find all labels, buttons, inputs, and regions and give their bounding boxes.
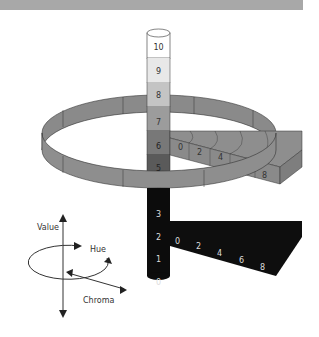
chroma-lower-label-0: 0 xyxy=(175,237,180,246)
hue-arrow-icon xyxy=(74,242,82,250)
munsell-diagram: 10 9 8 7 6 5 3 2 1 0 0 2 4 8 0 2 4 6 8 V… xyxy=(0,0,319,337)
chroma-upper-label-2: 2 xyxy=(197,148,202,157)
chroma-lower-label-4: 4 xyxy=(217,249,222,258)
value-label-6: 6 xyxy=(156,142,161,151)
value-label-7: 7 xyxy=(156,118,161,127)
chroma-arrow-out-icon xyxy=(120,286,127,294)
hue-arrow-tip-icon xyxy=(104,257,112,264)
chroma-lower-label-2: 2 xyxy=(196,242,201,251)
chroma-lower-label-8: 8 xyxy=(260,263,265,272)
chroma-arrow-in-icon xyxy=(66,269,73,277)
value-label-2: 2 xyxy=(156,233,161,242)
chroma-lower-label-6: 6 xyxy=(239,256,244,265)
value-label-5: 5 xyxy=(156,164,161,173)
chroma-upper-label-8: 8 xyxy=(262,171,267,180)
hue-axis-label: Hue xyxy=(90,245,106,254)
value-label-8: 8 xyxy=(156,91,161,100)
value-label-10: 10 xyxy=(153,43,163,52)
chroma-wedge-lower xyxy=(170,221,302,276)
value-up-arrow-icon xyxy=(59,214,67,222)
value-axis-label: Value xyxy=(37,223,59,232)
chroma-axis-label: Chroma xyxy=(83,296,114,305)
chroma-upper-label-4: 4 xyxy=(218,153,223,162)
value-label-1: 1 xyxy=(156,255,161,264)
value-down-arrow-icon xyxy=(59,310,67,318)
value-label-3: 3 xyxy=(156,210,161,219)
value-label-9: 9 xyxy=(156,67,161,76)
chroma-upper-label-0: 0 xyxy=(178,143,183,152)
value-label-0: 0 xyxy=(156,278,161,287)
